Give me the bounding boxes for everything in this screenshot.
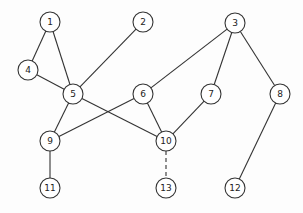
nodes-layer: 12345678910111213 xyxy=(18,12,290,198)
node-label: 4 xyxy=(25,65,31,75)
node-label: 2 xyxy=(140,17,146,27)
edge-8-12 xyxy=(239,103,275,179)
node-label: 3 xyxy=(232,18,238,28)
edge-5-9 xyxy=(54,103,68,132)
node-13: 13 xyxy=(156,178,176,198)
node-label: 5 xyxy=(70,89,76,99)
node-label: 10 xyxy=(160,136,172,146)
node-label: 1 xyxy=(47,17,53,27)
node-7: 7 xyxy=(201,84,221,104)
edge-3-7 xyxy=(214,32,232,84)
node-11: 11 xyxy=(40,178,60,198)
node-3: 3 xyxy=(225,13,245,33)
edge-6-9 xyxy=(59,99,134,137)
edge-5-10 xyxy=(82,99,157,137)
edge-3-8 xyxy=(240,31,274,85)
edge-4-5 xyxy=(37,75,64,90)
node-8: 8 xyxy=(270,84,290,104)
node-1: 1 xyxy=(40,12,60,32)
edge-1-4 xyxy=(32,31,46,61)
node-label: 12 xyxy=(229,183,240,193)
node-9: 9 xyxy=(40,131,60,151)
node-label: 9 xyxy=(47,136,53,146)
edge-7-10 xyxy=(173,101,204,134)
node-label: 8 xyxy=(277,89,283,99)
node-label: 7 xyxy=(208,89,214,99)
node-label: 6 xyxy=(140,89,146,99)
node-10: 10 xyxy=(156,131,176,151)
node-5: 5 xyxy=(63,84,83,104)
graph-diagram: 12345678910111213 xyxy=(0,0,303,213)
edge-6-10 xyxy=(147,103,161,132)
edges-layer xyxy=(32,29,276,179)
node-label: 11 xyxy=(44,183,55,193)
node-6: 6 xyxy=(133,84,153,104)
graph-canvas: 12345678910111213 xyxy=(0,0,303,213)
edge-2-5 xyxy=(80,29,136,87)
node-4: 4 xyxy=(18,60,38,80)
node-12: 12 xyxy=(225,178,245,198)
edge-1-5 xyxy=(53,32,70,85)
node-label: 13 xyxy=(160,183,171,193)
node-2: 2 xyxy=(133,12,153,32)
